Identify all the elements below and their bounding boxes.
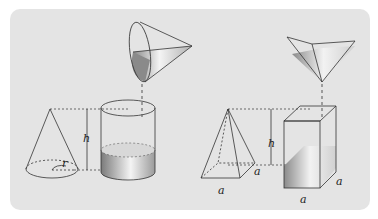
prism-base-label-side: a [336, 175, 343, 188]
height-label-right: h [268, 137, 275, 150]
pouring-cone [126, 21, 192, 118]
prism-container [284, 106, 336, 188]
height-label-left: h [83, 132, 90, 145]
volume-diagram: r h a a [0, 0, 378, 219]
cone-solid [26, 109, 78, 178]
pyramid-base-label-side: a [254, 165, 261, 178]
cylinder-container [101, 100, 155, 180]
prism-base-label-front: a [300, 193, 307, 206]
radius-label: r [62, 157, 68, 170]
pyramid-solid [201, 109, 255, 178]
pyramid-base-label-front: a [218, 184, 225, 197]
